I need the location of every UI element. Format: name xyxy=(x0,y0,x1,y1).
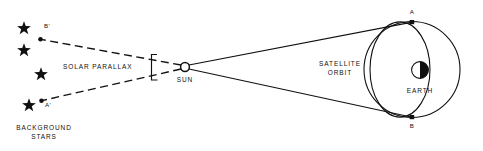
point-marker-a-prime xyxy=(39,99,44,104)
solar-parallax-diagram: B' A' SOLAR PARALLAX SUN SATELLITE ORBIT… xyxy=(0,0,483,151)
label-point-a-prime: A' xyxy=(45,101,51,109)
label-point-a: A xyxy=(403,8,421,16)
projection-line-sun-to-b-prime xyxy=(41,39,181,65)
point-marker-b xyxy=(410,115,415,119)
label-point-b: B xyxy=(403,122,421,130)
sight-line-sun-to-b xyxy=(189,69,411,117)
point-marker-b-prime xyxy=(38,37,43,42)
star-icon-3 xyxy=(34,67,48,80)
star-icon-2 xyxy=(17,43,31,56)
label-earth: EARTH xyxy=(400,87,440,95)
label-sun: SUN xyxy=(172,76,198,84)
label-satellite-orbit-line1: SATELLITE xyxy=(311,60,369,68)
star-icon-4 xyxy=(22,98,36,111)
sun-icon xyxy=(181,63,190,72)
earth-shaded-half-icon xyxy=(420,62,428,79)
label-point-b-prime: B' xyxy=(44,22,50,30)
label-satellite-orbit-line2: ORBIT xyxy=(311,69,369,77)
label-solar-parallax: SOLAR PARALLAX xyxy=(63,63,133,71)
star-icon-1 xyxy=(17,21,31,34)
projection-line-sun-to-a-prime xyxy=(42,69,181,101)
point-marker-a xyxy=(410,20,415,24)
label-background-stars-line2: STARS xyxy=(8,133,80,141)
sight-line-sun-to-a xyxy=(189,22,411,65)
label-background-stars-line1: BACKGROUND xyxy=(8,124,80,132)
